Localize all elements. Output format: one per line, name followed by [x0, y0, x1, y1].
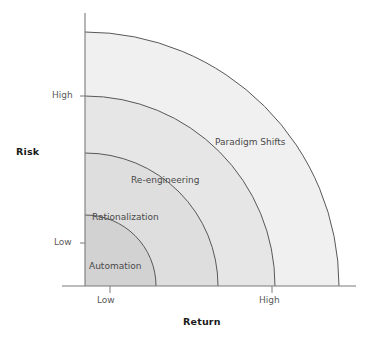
- x-axis-title: Return: [183, 317, 221, 327]
- band-label-automation: Automation: [89, 262, 141, 271]
- y-axis-title: Risk: [16, 147, 39, 157]
- band-label-paradigm-shifts: Paradigm Shifts: [215, 138, 285, 147]
- band-label-re-engineering: Re-engineering: [131, 176, 199, 185]
- x-tick-label-high: High: [259, 296, 280, 305]
- y-tick-label-low: Low: [54, 238, 72, 247]
- x-tick-label-low: Low: [97, 296, 115, 305]
- y-tick-label-high: High: [52, 91, 73, 100]
- risk-return-quadrant-chart: Risk Return High Low Low High Automation…: [0, 0, 368, 337]
- quadrant-arcs-svg: [0, 0, 368, 337]
- band-label-rationalization: Rationalization: [92, 213, 159, 222]
